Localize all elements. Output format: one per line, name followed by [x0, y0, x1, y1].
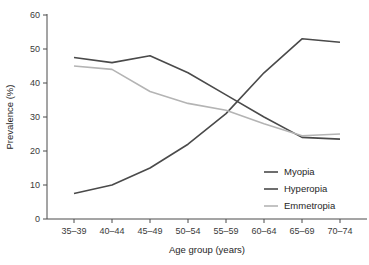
- y-axis: 0102030405060: [30, 10, 47, 224]
- y-tick-label: 10: [30, 180, 40, 190]
- chart-container: 0102030405060 35–3940–4445–4950–5455–596…: [0, 0, 369, 265]
- line-chart: 0102030405060 35–3940–4445–4950–5455–596…: [0, 0, 369, 265]
- y-tick-label: 0: [35, 214, 40, 224]
- x-axis: 35–3940–4445–4950–5455–5960–6465–6970–74: [47, 219, 367, 236]
- x-tick-label: 55–59: [213, 226, 238, 236]
- y-tick-label: 50: [30, 44, 40, 54]
- series-line-emmetropia: [74, 66, 340, 136]
- y-tick-label: 40: [30, 78, 40, 88]
- x-tick-label: 50–54: [175, 226, 200, 236]
- chart-legend: MyopiaHyperopiaEmmetropia: [264, 166, 336, 211]
- x-tick-label: 70–74: [327, 226, 352, 236]
- legend-label-emmetropia: Emmetropia: [284, 200, 336, 211]
- series-line-hyperopia: [74, 56, 340, 139]
- x-tick-label: 40–44: [99, 226, 124, 236]
- y-tick-label: 60: [30, 10, 40, 20]
- legend-label-myopia: Myopia: [284, 166, 315, 177]
- y-axis-title: Prevalence (%): [4, 85, 15, 150]
- x-tick-label: 35–39: [61, 226, 86, 236]
- y-tick-label: 20: [30, 146, 40, 156]
- y-tick-label: 30: [30, 112, 40, 122]
- x-tick-label: 60–64: [251, 226, 276, 236]
- legend-label-hyperopia: Hyperopia: [284, 183, 328, 194]
- x-tick-label: 45–49: [137, 226, 162, 236]
- x-axis-title: Age group (years): [169, 244, 245, 255]
- x-tick-label: 65–69: [289, 226, 314, 236]
